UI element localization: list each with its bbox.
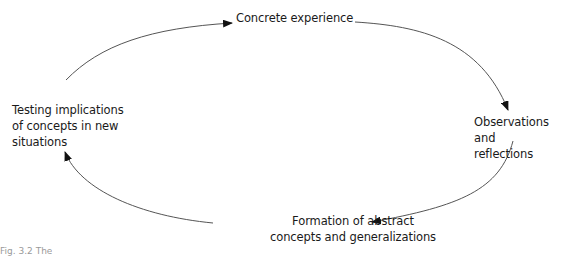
figure-caption: Fig. 3.2 The [0,246,52,256]
node-abstract-concepts: Formation of abstract concepts and gener… [242,213,464,245]
node-label-line: Formation of abstract [242,213,464,229]
node-label-line: Observations and [474,114,571,146]
node-label-line: concepts and generalizations [242,229,464,245]
arrow-left-to-top [66,23,232,80]
node-concrete-experience: Concrete experience [236,10,353,26]
node-label-line: reflections [474,146,571,162]
arrow-bottom-to-left [65,152,213,223]
node-label-line: of concepts in new [12,118,124,134]
node-label-line: Testing implications [12,102,124,118]
node-observations-reflections: Observations and reflections [474,114,571,162]
arrow-top-to-right [355,22,508,110]
node-testing-implications: Testing implications of concepts in new … [12,102,124,150]
node-label-line: situations [12,134,124,150]
node-label-line: Concrete experience [236,10,353,26]
